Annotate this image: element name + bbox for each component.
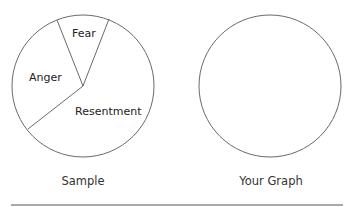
slice-label-anger: Anger	[29, 71, 62, 84]
sample-pie-chart: Fear Anger Resentment	[12, 15, 154, 157]
sample-caption: Sample	[61, 174, 104, 188]
your-graph-pie-outline	[199, 15, 341, 157]
slice-label-resentment: Resentment	[75, 105, 142, 118]
slice-label-fear: Fear	[72, 27, 96, 40]
pie-chart-figure: Fear Anger Resentment Sample Your Graph	[0, 0, 355, 207]
your-graph-caption: Your Graph	[238, 174, 302, 188]
your-graph-pie-chart	[199, 15, 341, 157]
